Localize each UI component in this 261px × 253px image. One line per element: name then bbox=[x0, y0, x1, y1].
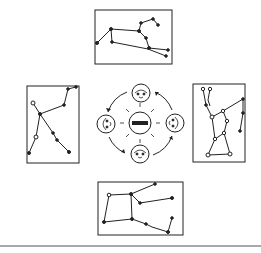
divider-rule bbox=[0, 245, 261, 247]
sun-icon bbox=[120, 103, 160, 143]
constellation-panel-bottom bbox=[98, 182, 183, 235]
constellation-panel-top bbox=[95, 10, 172, 64]
constellation-panel-left bbox=[27, 86, 79, 163]
constellation-panel-right bbox=[193, 84, 245, 162]
diagram: Seasonal constellations around the sun bbox=[0, 0, 261, 253]
face-icon-bottom bbox=[131, 145, 149, 163]
face-icon-top bbox=[132, 84, 150, 102]
face-icon-left bbox=[97, 115, 115, 133]
face-icon-right bbox=[166, 114, 184, 132]
